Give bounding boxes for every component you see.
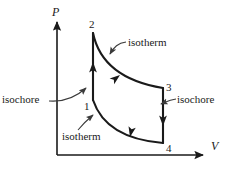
annotation-isotherm-top: isotherm [128, 37, 167, 48]
cycle-path-group [93, 33, 163, 143]
segment-4-1-isotherm [93, 100, 163, 143]
leader-isotherm-top [110, 42, 126, 54]
annotation-isochore-left: isochore [2, 94, 39, 105]
cycle-direction-arrows [89, 62, 167, 138]
annotation-isochore-right: isochore [177, 94, 214, 105]
state-label-3: 3 [166, 82, 172, 93]
state-label-2: 2 [89, 19, 95, 30]
pv-diagram-canvas [0, 0, 231, 169]
state-label-1: 1 [84, 101, 90, 112]
x-axis-label: V [211, 140, 218, 152]
annotation-isotherm-bottom: isotherm [62, 131, 101, 142]
y-axis-label: P [52, 6, 59, 18]
leader-isochore-left [49, 88, 86, 101]
pv-diagram-figure: P V 1 2 3 4 isotherm isotherm isochore i… [0, 0, 231, 169]
state-label-4: 4 [166, 143, 172, 154]
leader-isotherm-bottom [78, 115, 93, 130]
